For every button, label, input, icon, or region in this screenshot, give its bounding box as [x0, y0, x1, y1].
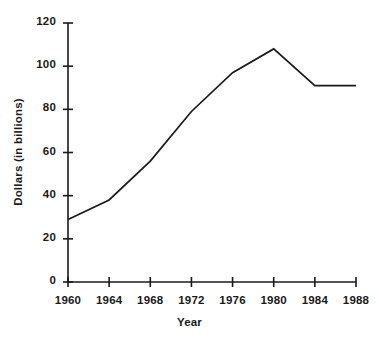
x-axis-tick-label: 1988	[326, 294, 379, 306]
chart-plot-area: Dollars (in billions)	[0, 0, 379, 339]
y-axis-tick-label: 80	[0, 101, 56, 113]
y-axis-tick-label: 20	[0, 231, 56, 243]
x-axis-title: Year	[0, 316, 379, 328]
line-chart: Dollars (in billions) 020406080100120 19…	[0, 0, 379, 339]
y-axis-tick-label: 40	[0, 188, 56, 200]
y-axis-tick-label: 100	[0, 58, 56, 70]
y-axis-tick-label: 60	[0, 145, 56, 157]
y-axis-tick-label: 0	[0, 274, 56, 286]
data-series-line	[68, 49, 356, 220]
y-axis-tick-label: 120	[0, 15, 56, 27]
